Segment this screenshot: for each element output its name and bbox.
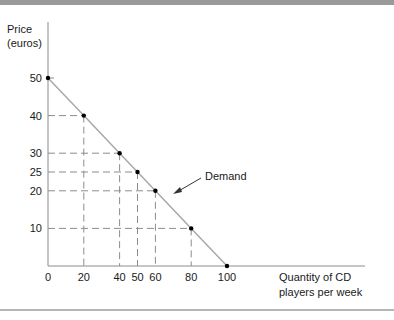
data-point bbox=[189, 226, 193, 230]
y-axis-label-line2: (euros) bbox=[7, 37, 42, 49]
data-point bbox=[135, 170, 139, 174]
data-point bbox=[153, 189, 157, 193]
data-point bbox=[225, 264, 229, 268]
dashed-guides bbox=[48, 78, 191, 266]
bottom-rule bbox=[0, 309, 394, 311]
x-tick-labels: 02040506080100 bbox=[45, 271, 236, 283]
x-tick-label: 40 bbox=[113, 271, 125, 283]
data-point bbox=[46, 76, 50, 80]
y-tick-label: 20 bbox=[30, 185, 42, 197]
x-tick-label: 20 bbox=[78, 271, 90, 283]
x-axis-label-line2: players per week bbox=[279, 286, 363, 298]
x-axis-label-line1: Quantity of CD bbox=[279, 271, 351, 283]
x-tick-label: 100 bbox=[218, 271, 236, 283]
y-tick-label: 30 bbox=[30, 147, 42, 159]
y-tick-label: 10 bbox=[30, 222, 42, 234]
demand-chart: 504030252010 02040506080100 Price (euros… bbox=[0, 0, 394, 320]
arrowhead-icon bbox=[173, 187, 182, 194]
y-tick-label: 25 bbox=[30, 166, 42, 178]
y-axis-label-line1: Price bbox=[7, 23, 32, 35]
data-point bbox=[117, 151, 121, 155]
y-tick-label: 50 bbox=[30, 72, 42, 84]
x-tick-label: 0 bbox=[45, 271, 51, 283]
demand-annotation: Demand bbox=[205, 170, 247, 182]
data-point bbox=[82, 113, 86, 117]
x-tick-label: 50 bbox=[131, 271, 143, 283]
x-tick-label: 80 bbox=[185, 271, 197, 283]
x-tick-label: 60 bbox=[149, 271, 161, 283]
y-tick-labels: 504030252010 bbox=[30, 72, 42, 234]
y-tick-label: 40 bbox=[30, 110, 42, 122]
